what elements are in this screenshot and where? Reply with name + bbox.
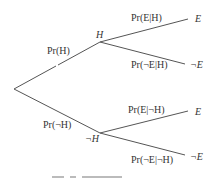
node-H: H [96, 30, 103, 40]
node-E-upper: E [195, 14, 201, 24]
node-notH: ¬H [85, 134, 99, 144]
edge-label-pr-notE-given-notH: Pr(¬E|¬H) [131, 155, 173, 165]
edge-label-pr-E-given-H: Pr(E|H) [131, 13, 162, 23]
edge-label-pr-H: Pr(H) [47, 46, 70, 56]
edge-notH-notE [100, 133, 185, 155]
tree-edges [0, 0, 218, 181]
edge-label-pr-E-given-notH: Pr(E|¬H) [128, 105, 165, 115]
node-E-lower: E [195, 107, 201, 117]
node-notE-lower: ¬E [190, 152, 203, 162]
edge-root-H [14, 66, 56, 89]
clipped-caption [52, 176, 162, 181]
node-notE-upper: ¬E [190, 60, 203, 70]
edge-label-pr-notH: Pr(¬H) [43, 120, 71, 130]
edge-label-pr-notE-given-H: Pr(¬E|H) [131, 60, 168, 70]
